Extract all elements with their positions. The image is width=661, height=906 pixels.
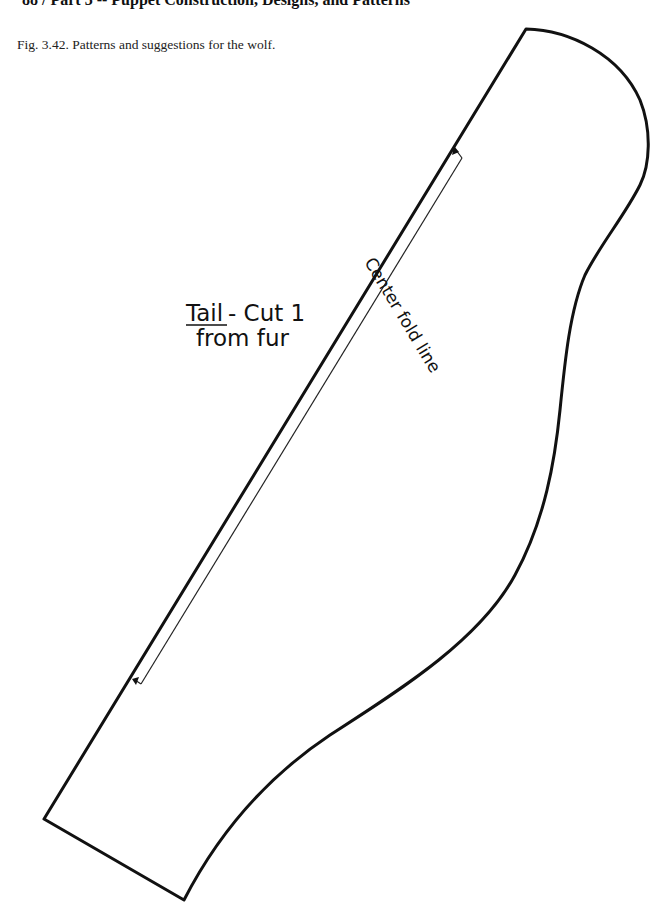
tail-pattern-drawing: Tail - Cut 1 from fur Center fold line: [0, 0, 661, 906]
document-page: 88 / Part 3 -- Puppet Construction, Desi…: [0, 0, 661, 906]
center-fold-line: [141, 158, 462, 684]
pattern-outline: [44, 29, 648, 900]
material-instruction: from fur: [196, 325, 290, 351]
fold-arrow-bottom-icon: [132, 677, 141, 685]
piece-label: Tail - Cut 1 from fur: [185, 300, 305, 351]
fold-line-label: Center fold line: [361, 254, 445, 376]
piece-name: Tail: [185, 300, 223, 326]
cut-instruction: - Cut 1: [228, 300, 305, 326]
